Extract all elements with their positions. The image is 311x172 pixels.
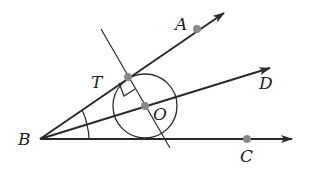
point-C xyxy=(243,135,251,143)
label-C: C xyxy=(240,148,253,165)
label-B: B xyxy=(18,131,31,148)
perpendicular-line-TO xyxy=(101,29,170,148)
geometry-diagram: A T O D B C xyxy=(0,0,311,172)
angle-arc-DBC xyxy=(87,125,89,139)
angle-arc-ABD xyxy=(82,110,87,125)
label-O: O xyxy=(153,106,167,123)
label-D: D xyxy=(259,75,273,92)
label-A: A xyxy=(175,16,187,33)
point-O xyxy=(141,102,149,110)
point-T xyxy=(124,73,132,81)
label-T: T xyxy=(91,74,102,91)
point-A xyxy=(193,25,201,33)
